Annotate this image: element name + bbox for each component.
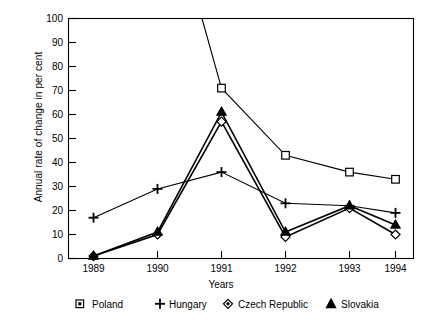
marker-triangle (345, 201, 354, 209)
marker-triangle (217, 107, 226, 115)
x-tick-label: 1991 (210, 263, 233, 274)
legend-item-czech-republic[interactable]: Czech Republic (224, 299, 309, 310)
x-tick-label: 1989 (82, 263, 105, 274)
y-tick-label: 80 (52, 61, 64, 72)
legend-item-poland[interactable]: Poland (76, 299, 123, 310)
legend-label: Poland (92, 299, 123, 310)
legend-marker-plus (155, 299, 165, 309)
x-tick-label: 1993 (338, 263, 361, 274)
y-tick-label: 50 (52, 133, 64, 144)
marker-square (282, 152, 290, 160)
x-tick-label: 1990 (146, 263, 169, 274)
y-axis-tick-labels: 100 90 80 70 60 50 40 30 20 10 0 (46, 13, 63, 264)
series-poland (202, 19, 399, 184)
legend-marker-triangle (326, 299, 335, 308)
x-axis-tick-labels: 1989 1990 1991 1992 1993 1994 (82, 263, 407, 274)
marker-square (218, 84, 226, 92)
marker-diamond-group (89, 117, 400, 260)
chart-container: Annual rate of change in per cent 100 90… (0, 0, 437, 324)
marker-square (346, 168, 354, 176)
marker-diamond (391, 230, 400, 239)
y-tick-label: 30 (52, 181, 64, 192)
y-tick-label: 0 (57, 253, 63, 264)
chart-legend: Poland Hungary Czech Republic Slovakia (76, 299, 379, 310)
y-tick-label: 20 (52, 205, 64, 216)
x-tick-label: 1994 (384, 263, 407, 274)
x-axis-ticks (94, 251, 396, 259)
y-axis-ticks (69, 19, 77, 259)
marker-square (392, 176, 400, 184)
chart-svg: 100 90 80 70 60 50 40 30 20 10 0 1989 19… (0, 0, 437, 324)
legend-item-slovakia[interactable]: Slovakia (326, 299, 379, 310)
y-tick-label: 90 (52, 37, 64, 48)
legend-item-hungary[interactable]: Hungary (155, 299, 207, 310)
plot-frame (69, 19, 414, 259)
legend-label: Slovakia (341, 299, 379, 310)
x-axis-title: Years (208, 279, 233, 290)
series-czech-republic (89, 117, 400, 260)
legend-label: Hungary (169, 299, 207, 310)
y-tick-label: 10 (52, 229, 64, 240)
x-tick-label: 1992 (274, 263, 297, 274)
y-tick-label: 60 (52, 109, 64, 120)
marker-square-group (218, 84, 400, 183)
y-tick-label: 100 (46, 13, 63, 24)
y-tick-label: 70 (52, 85, 64, 96)
legend-label: Czech Republic (238, 299, 308, 310)
y-tick-label: 40 (52, 157, 64, 168)
